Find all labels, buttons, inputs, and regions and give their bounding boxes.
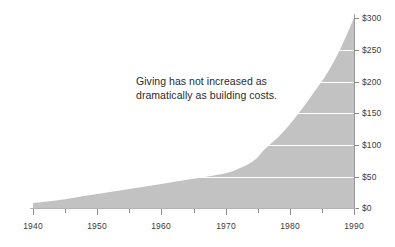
giving-annotation: Giving has not increased asdramatically … bbox=[136, 74, 286, 102]
chart-plot-area bbox=[0, 0, 395, 247]
y-axis-label-200: $200 bbox=[362, 78, 381, 87]
x-axis-group bbox=[30, 209, 356, 216]
annotation-line-2: dramatically as building costs. bbox=[136, 88, 286, 102]
x-axis-label-1980: 1980 bbox=[280, 222, 300, 231]
x-axis-label-1960: 1960 bbox=[151, 222, 171, 231]
x-axis-label-1990: 1990 bbox=[344, 222, 364, 231]
x-axis-label-1970: 1970 bbox=[216, 222, 236, 231]
annotation-line-1: Giving has not increased as bbox=[136, 74, 286, 88]
y-axis-label-300: $300 bbox=[362, 14, 381, 23]
x-axis-label-1950: 1950 bbox=[87, 222, 107, 231]
x-axis-label-1940: 1940 bbox=[23, 222, 43, 231]
y-axis-label-250: $250 bbox=[362, 46, 381, 55]
y-axis-label-150: $150 bbox=[362, 109, 381, 118]
y-axis-label-0: $0 bbox=[362, 204, 372, 213]
y-axis-label-50: $50 bbox=[362, 173, 376, 182]
y-axis-group bbox=[355, 14, 360, 209]
y-axis-label-100: $100 bbox=[362, 141, 381, 150]
chart-container: $0$50$100$150$200$250$300 19401950196019… bbox=[0, 0, 395, 247]
